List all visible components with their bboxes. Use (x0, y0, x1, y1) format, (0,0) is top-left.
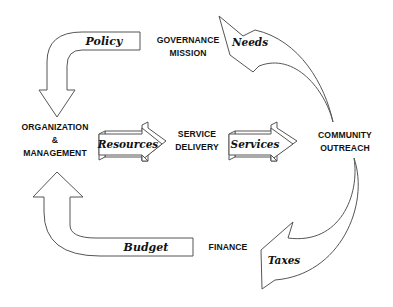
needs-label: Needs (231, 36, 268, 48)
resources-arrow: Resources (97, 122, 166, 161)
taxes-label: Taxes (268, 254, 301, 266)
budget-arrow: Budget (33, 172, 193, 256)
organization-line1: ORGANIZATION (5, 121, 105, 134)
finance-line1: FINANCE (203, 241, 253, 254)
service-delivery-node: SERVICE DELIVERY (167, 128, 227, 154)
community-outreach-node: COMMUNITY OUTREACH (305, 129, 385, 155)
resources-label: Resources (97, 138, 159, 150)
services-label: Services (231, 138, 280, 150)
governance-line2: MISSION (148, 47, 228, 60)
service-delivery-line2: DELIVERY (167, 141, 227, 154)
services-arrow: Services (229, 122, 297, 161)
finance-node: FINANCE (203, 241, 253, 254)
community-line2: OUTREACH (305, 142, 385, 155)
needs-arrow: Needs (219, 16, 333, 122)
budget-label: Budget (123, 241, 169, 254)
taxes-arrow: Taxes (261, 158, 358, 289)
governance-line1: GOVERNANCE (148, 34, 228, 47)
policy-label: Policy (85, 35, 124, 48)
organization-management-node: ORGANIZATION & MANAGEMENT (5, 121, 105, 160)
service-delivery-line1: SERVICE (167, 128, 227, 141)
community-line1: COMMUNITY (305, 129, 385, 142)
governance-mission-node: GOVERNANCE MISSION (148, 34, 228, 60)
organization-line2: & (5, 134, 105, 147)
policy-arrow: Policy (39, 32, 140, 117)
organization-line3: MANAGEMENT (5, 147, 105, 160)
